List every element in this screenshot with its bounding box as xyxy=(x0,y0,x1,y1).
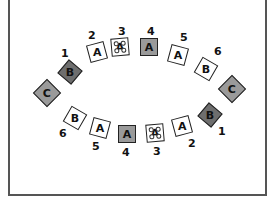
label-bottom-2: 2 xyxy=(188,138,196,149)
tile-top-4: A xyxy=(140,38,158,56)
label-bottom-5: 5 xyxy=(92,141,100,152)
tile-bottom-4: A xyxy=(118,125,136,143)
tile-bottom-3: A xyxy=(145,123,165,143)
label-bottom-4: 4 xyxy=(122,147,130,158)
label-top-5: 5 xyxy=(180,32,188,43)
tile-top-3: A xyxy=(110,37,130,57)
label-top-3: 3 xyxy=(118,26,126,37)
label-bottom-1: 1 xyxy=(218,126,226,137)
label-top-4: 4 xyxy=(147,26,155,37)
label-top-6: 6 xyxy=(214,46,222,57)
label-top-2: 2 xyxy=(88,30,96,41)
label-bottom-3: 3 xyxy=(153,146,161,157)
label-top-1: 1 xyxy=(61,48,69,59)
label-bottom-6: 6 xyxy=(59,128,67,139)
